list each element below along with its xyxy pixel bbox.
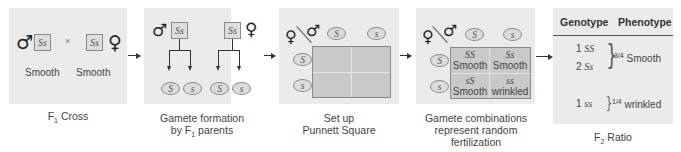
branch-line — [190, 50, 191, 67]
gamete-female-2: s — [430, 80, 449, 93]
phenotype-wrinkled: 1/4 wrinkled — [612, 98, 661, 110]
arrow-right-icon — [264, 55, 275, 56]
branch-line — [218, 50, 219, 67]
arrow-down-icon — [216, 66, 220, 71]
gamete-female-2: s — [293, 79, 312, 92]
arrow-down-icon — [237, 66, 241, 71]
arrow-right-icon — [400, 55, 411, 56]
punnett-grid-filled: SS Smooth Ss Smooth sS Smooth ss wrinkle… — [450, 47, 531, 99]
gamete-female-2: s — [232, 82, 251, 95]
grid-divider-h — [451, 73, 530, 74]
header-genotype: Genotype — [560, 16, 608, 28]
gamete-male-1: S — [465, 28, 484, 41]
gamete-male-2: s — [503, 28, 522, 41]
header-phenotype: Phenotype — [618, 16, 672, 28]
female-genotype-box: Ss — [86, 34, 103, 51]
male-phenotype: Smooth — [25, 67, 59, 78]
female-phenotype: Smooth — [76, 67, 110, 78]
male-genotype-box: Ss — [34, 34, 51, 51]
female-symbol-icon: ♀ — [108, 31, 122, 53]
arrow-right-icon — [128, 55, 140, 56]
arrow-down-icon — [167, 66, 171, 71]
punnett-cell: Ss Smooth — [490, 49, 530, 71]
grid-divider-h — [313, 72, 390, 73]
branch-line — [179, 39, 180, 50]
caption-punnett-setup: Set up Punnett Square — [279, 112, 399, 136]
male-symbol-icon: ♂ — [306, 21, 320, 40]
phenotype-smooth: 3/4 Smooth — [614, 52, 661, 64]
gamete-male-1: S — [161, 82, 180, 95]
gamete-female-1: S — [210, 82, 229, 95]
caption-f2-ratio: F2 Ratio — [553, 131, 673, 148]
punnett-cell: ss wrinkled — [490, 75, 530, 97]
branch-line — [232, 39, 233, 50]
female-parent-box: Ss — [224, 22, 241, 39]
female-symbol-icon: ♀ — [422, 27, 434, 46]
cross-sign: × — [65, 36, 70, 46]
gamete-male-1: S — [327, 27, 346, 40]
arrow-down-icon — [188, 66, 192, 71]
punnett-grid-empty — [312, 46, 391, 98]
caption-gamete-combinations: Gamete combinations represent random fer… — [410, 112, 542, 148]
male-symbol-icon: ♂ — [152, 20, 167, 40]
male-genotype: Ss — [38, 37, 47, 48]
branch-line — [239, 50, 240, 67]
gamete-male-2: s — [367, 27, 386, 40]
male-symbol-icon: ♂ — [16, 31, 33, 53]
caption-f1-cross: F1 Cross — [9, 110, 127, 127]
panel-f1-cross — [9, 8, 127, 104]
gamete-female-1: S — [293, 53, 312, 66]
female-symbol-icon: ♀ — [245, 19, 257, 39]
branch-line — [218, 50, 240, 51]
row-ss-dominant: 1 SS — [576, 43, 594, 54]
caption-gamete-formation: Gamete formation by F1 parents — [137, 112, 267, 141]
male-parent-box: Ss — [171, 22, 188, 39]
branch-line — [169, 50, 170, 67]
row-ss-hetero: 2 Ss — [576, 61, 593, 72]
female-symbol-icon: ♀ — [285, 27, 297, 46]
branch-line — [169, 50, 191, 51]
punnett-cell: sS Smooth — [451, 75, 489, 97]
header-rule — [553, 35, 673, 36]
row-ss-recessive: 1 ss — [576, 98, 592, 109]
gamete-female-1: S — [430, 54, 449, 67]
punnett-cell: SS Smooth — [451, 49, 489, 71]
gamete-male-2: s — [183, 82, 202, 95]
female-genotype: Ss — [90, 37, 99, 48]
male-symbol-icon: ♂ — [443, 21, 457, 40]
